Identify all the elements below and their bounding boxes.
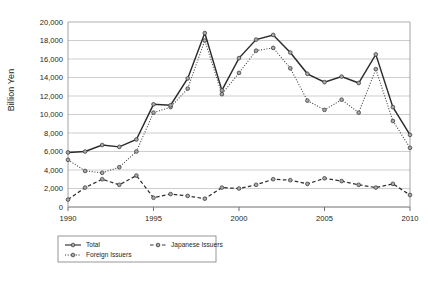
data-point-marker — [220, 92, 224, 96]
data-point-marker — [169, 103, 173, 107]
legend-marker-dot — [71, 243, 75, 247]
data-point-marker — [271, 177, 275, 181]
data-point-marker — [220, 186, 224, 190]
data-point-marker — [391, 182, 395, 186]
y-tick-label: 4,000 — [44, 166, 63, 175]
data-point-marker — [117, 165, 121, 169]
legend-box — [58, 236, 216, 262]
data-point-marker — [271, 46, 275, 50]
data-point-marker — [254, 49, 258, 53]
data-point-marker — [237, 56, 241, 60]
x-tick-labels-group: 19901995200020052010 — [60, 214, 419, 223]
data-point-marker — [100, 143, 104, 147]
legend-label[interactable]: Foreign Issuers — [86, 251, 132, 259]
data-point-marker — [254, 183, 258, 187]
data-point-marker — [408, 146, 412, 150]
data-point-marker — [152, 111, 156, 115]
data-point-marker — [100, 177, 104, 181]
y-tick-label: 12,000 — [40, 92, 63, 101]
data-point-marker — [203, 197, 207, 201]
data-point-marker — [66, 151, 70, 155]
y-tick-label: 18,000 — [40, 36, 63, 45]
y-tick-label: 16,000 — [40, 55, 63, 64]
data-point-marker — [186, 194, 190, 198]
chart-legend[interactable]: TotalJapanese IssuersForeign Issuers — [58, 236, 223, 262]
data-point-marker — [186, 77, 190, 81]
legend-marker-dot — [156, 243, 160, 247]
data-point-marker — [152, 196, 156, 200]
data-point-marker — [340, 98, 344, 102]
data-point-marker — [391, 105, 395, 109]
data-point-marker — [357, 111, 361, 115]
data-point-marker — [288, 51, 292, 55]
y-tick-label: 10,000 — [40, 110, 63, 119]
legend-label[interactable]: Japanese Issuers — [171, 241, 223, 249]
data-point-marker — [374, 67, 378, 71]
data-point-marker — [357, 183, 361, 187]
y-tick-label: 6,000 — [44, 147, 63, 156]
data-point-marker — [288, 66, 292, 70]
x-tick-label: 2000 — [231, 214, 248, 223]
data-point-marker — [288, 178, 292, 182]
x-tick-label: 1990 — [60, 214, 77, 223]
data-point-marker — [66, 158, 70, 162]
x-tick-label: 2010 — [402, 214, 419, 223]
data-point-marker — [306, 72, 310, 76]
data-point-marker — [237, 187, 241, 191]
chart-container: Billion Yen 02,0004,0006,0008,00010,0001… — [0, 0, 428, 284]
data-point-marker — [203, 31, 207, 35]
data-point-marker — [357, 81, 361, 85]
y-tick-label: 8,000 — [44, 129, 63, 138]
data-point-marker — [186, 87, 190, 91]
data-point-marker — [220, 89, 224, 93]
data-point-marker — [66, 198, 70, 202]
data-point-marker — [152, 102, 156, 106]
data-point-marker — [408, 133, 412, 137]
series-line-foreign-issuers — [68, 41, 410, 173]
x-tick-label: 2005 — [316, 214, 333, 223]
data-point-marker — [306, 182, 310, 186]
y-tick-label: 14,000 — [40, 73, 63, 82]
data-point-marker — [323, 108, 327, 112]
data-point-marker — [340, 179, 344, 183]
data-point-marker — [117, 145, 121, 149]
data-point-marker — [169, 192, 173, 196]
data-point-marker — [340, 75, 344, 79]
series-line-total — [68, 33, 410, 152]
data-point-marker — [306, 99, 310, 103]
data-point-marker — [374, 53, 378, 57]
data-series-group — [66, 31, 412, 201]
data-point-marker — [391, 119, 395, 123]
data-point-marker — [135, 174, 139, 178]
data-point-marker — [408, 193, 412, 197]
x-tick-label: 1995 — [145, 214, 162, 223]
data-point-marker — [323, 176, 327, 180]
data-point-marker — [83, 169, 87, 173]
legend-marker-dot — [71, 253, 75, 257]
data-point-marker — [254, 38, 258, 42]
y-tick-label: 20,000 — [40, 18, 63, 27]
data-point-marker — [135, 150, 139, 154]
y-tick-labels-group: 02,0004,0006,0008,00010,00012,00014,0001… — [40, 18, 63, 212]
data-point-marker — [117, 183, 121, 187]
legend-label[interactable]: Total — [86, 241, 100, 248]
data-point-marker — [323, 80, 327, 84]
line-chart-plot: 02,0004,0006,0008,00010,00012,00014,0001… — [0, 0, 428, 284]
y-axis-title: Billion Yen — [6, 45, 16, 135]
data-point-marker — [271, 33, 275, 37]
data-point-marker — [83, 150, 87, 154]
y-tick-label: 0 — [59, 203, 63, 212]
data-point-marker — [374, 186, 378, 190]
data-point-marker — [237, 71, 241, 75]
data-point-marker — [100, 171, 104, 175]
data-point-marker — [135, 138, 139, 142]
y-tick-label: 2,000 — [44, 184, 63, 193]
x-tick-marks-group — [68, 207, 410, 211]
data-point-marker — [83, 186, 87, 190]
